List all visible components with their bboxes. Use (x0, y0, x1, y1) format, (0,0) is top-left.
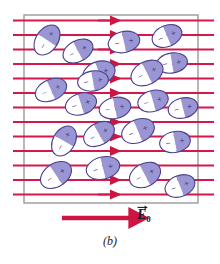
dipole: −+ (166, 95, 200, 122)
dipole: −+ (35, 156, 76, 194)
dipole: −+ (59, 34, 97, 68)
dielectric-polarization-figure: −+−+−+−+−+−+−+−+−+−+−+−+−+−+−+−+−+−+−+−+… (0, 0, 220, 264)
dipole: −+ (125, 157, 165, 193)
dipole: −+ (135, 87, 171, 116)
figure-canvas: −+−+−+−+−+−+−+−+−+−+−+−+−+−+−+−+−+−+−+−+… (0, 0, 220, 264)
dipole-group: −+−+−+−+−+−+−+−+−+−+−+−+−+−+−+−+−+−+−+−+… (29, 20, 200, 201)
dipole: −+ (106, 28, 142, 56)
dipole: −+ (162, 170, 199, 201)
dipole: −+ (46, 122, 81, 161)
dipole: −+ (149, 20, 186, 51)
dipole: −+ (118, 114, 158, 148)
dipole: −+ (84, 153, 122, 183)
dipole: −+ (97, 94, 133, 121)
dipole: −+ (29, 20, 66, 60)
